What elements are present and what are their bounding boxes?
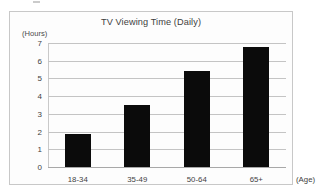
- y-axis-tick-label: 4: [38, 92, 42, 101]
- x-axis-tick-label: 35-49: [127, 175, 147, 184]
- scan-artifact: [33, 1, 40, 3]
- bar: [65, 134, 91, 167]
- y-axis-tick-label: 1: [38, 145, 42, 154]
- gridline: [48, 43, 286, 44]
- y-axis-tick-label: 5: [38, 74, 42, 83]
- bar: [243, 47, 269, 167]
- gridline: [48, 167, 286, 168]
- x-axis-tick-label: 18-34: [68, 175, 88, 184]
- chart-frame: TV Viewing Time (Daily) (Hours) 01234567…: [9, 11, 293, 185]
- y-axis-tick-label: 6: [38, 56, 42, 65]
- plot-area: 01234567 18-3435-4950-6465+ (Age): [48, 43, 286, 167]
- y-axis-tick-label: 0: [38, 163, 42, 172]
- y-axis-title: (Hours): [22, 29, 47, 38]
- x-axis-tick-label: 50-64: [187, 175, 207, 184]
- y-axis-tick-label: 2: [38, 127, 42, 136]
- y-axis-tick-label: 3: [38, 109, 42, 118]
- x-axis-title: (Age): [296, 175, 303, 184]
- bar: [124, 105, 150, 167]
- chart-title: TV Viewing Time (Daily): [10, 17, 292, 27]
- x-axis-tick-label: 65+: [250, 175, 263, 184]
- bar: [184, 71, 210, 167]
- y-axis-tick-label: 7: [38, 39, 42, 48]
